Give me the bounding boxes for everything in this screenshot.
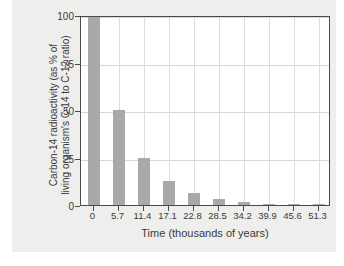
x-axis-tick-label: 17.1: [158, 210, 177, 221]
y-axis-tick: [75, 111, 80, 112]
x-axis-tick-label: 39.9: [258, 210, 277, 221]
y-axis-tick: [75, 16, 80, 17]
y-axis-tick-label: 75: [63, 58, 74, 69]
y-axis-tick-label: 100: [57, 11, 74, 22]
x-axis-tick-label: 45.6: [283, 210, 302, 221]
x-axis-tick-label: 28.5: [208, 210, 227, 221]
x-axis-tick-label: 0: [90, 210, 95, 221]
x-axis-tick-label: 34.2: [233, 210, 252, 221]
x-axis-tick-label: 22.8: [183, 210, 202, 221]
y-axis-tick-label: 25: [63, 153, 74, 164]
x-axis-tick-label: 5.7: [111, 210, 124, 221]
y-axis-tick: [75, 206, 80, 207]
x-axis-tick-label: 11.4: [134, 210, 152, 221]
y-axis-tick-label: 50: [63, 106, 74, 117]
axis-ticks: [80, 16, 330, 206]
y-axis-tick-label: 0: [68, 201, 74, 212]
y-axis-tick-labels: 0255075100: [54, 16, 74, 206]
x-axis-tick-label: 51.3: [308, 210, 327, 221]
figure: Carbon-14 radioactivity (as % of living …: [0, 0, 344, 266]
y-axis-tick: [75, 159, 80, 160]
x-axis-title: Time (thousands of years): [80, 227, 330, 239]
x-axis-tick-labels: 05.711.417.122.828.534.239.945.651.3: [80, 210, 330, 224]
y-axis-tick: [75, 64, 80, 65]
